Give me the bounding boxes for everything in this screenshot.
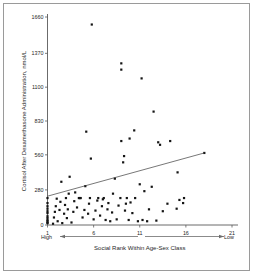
data-point: [46, 205, 48, 207]
y-tick-label: 560: [35, 152, 44, 158]
scatter-plot-figure: 028056083011001370166016111621Cortisol A…: [0, 0, 253, 274]
data-point: [61, 222, 63, 224]
data-point: [183, 197, 185, 199]
data-point: [143, 190, 145, 192]
regression-line: [48, 153, 205, 196]
data-point: [124, 209, 126, 211]
rank-low-label: Low: [224, 234, 234, 240]
data-point: [54, 211, 56, 213]
data-point: [152, 111, 154, 113]
figure-page: 028056083011001370166016111621Cortisol A…: [0, 0, 253, 274]
data-point: [64, 204, 66, 206]
data-point: [88, 203, 90, 205]
data-point: [137, 220, 139, 222]
x-tick-label: 11: [137, 230, 143, 236]
data-point: [155, 220, 157, 222]
data-point: [176, 171, 178, 173]
data-point: [119, 197, 121, 199]
data-point: [59, 201, 61, 203]
y-tick-label: 1660: [32, 14, 44, 20]
data-point: [122, 161, 124, 163]
rank-arrow-left-head-icon: [60, 235, 65, 239]
data-point: [112, 193, 114, 195]
data-point: [74, 191, 76, 193]
data-point: [94, 209, 96, 211]
data-point: [72, 211, 74, 213]
data-point: [90, 157, 92, 159]
data-point: [134, 197, 136, 199]
data-point: [70, 221, 72, 223]
data-point: [159, 144, 161, 146]
y-tick-label: 1370: [32, 50, 44, 56]
data-point: [85, 131, 87, 133]
data-point: [162, 210, 164, 212]
data-point: [141, 77, 143, 79]
data-point: [107, 202, 109, 204]
data-point: [105, 219, 107, 221]
data-point: [60, 181, 62, 183]
data-point: [93, 218, 95, 220]
data-point: [81, 216, 83, 218]
data-point: [131, 212, 133, 214]
data-point: [96, 199, 98, 201]
data-point: [67, 208, 69, 210]
scatter-plot-svg: 028056083011001370166016111621Cortisol A…: [0, 0, 253, 274]
data-point: [53, 216, 55, 218]
data-point: [166, 203, 168, 205]
rank-high-label: High: [41, 234, 52, 240]
axis-labels-group: 028056083011001370166016111621Cortisol A…: [21, 14, 235, 251]
data-point: [141, 219, 143, 221]
y-tick-label: 280: [35, 187, 44, 193]
data-point: [99, 215, 101, 217]
y-tick-label: 830: [35, 118, 44, 124]
data-point: [83, 209, 85, 211]
data-point: [46, 197, 48, 199]
data-point: [103, 197, 105, 199]
data-point: [146, 220, 148, 222]
data-point: [182, 202, 184, 204]
data-point: [76, 206, 78, 208]
data-point: [129, 137, 131, 139]
data-point: [55, 205, 57, 207]
data-point: [101, 205, 103, 207]
axes-group: [45, 14, 238, 228]
data-point: [56, 198, 58, 200]
data-point: [58, 209, 60, 211]
data-point: [68, 193, 70, 195]
data-point: [133, 129, 135, 131]
data-point: [89, 197, 91, 199]
data-point: [46, 210, 48, 212]
data-point: [120, 69, 122, 71]
data-point: [46, 215, 48, 217]
data-point: [46, 202, 48, 204]
trendline-group: [48, 153, 205, 196]
data-point: [120, 62, 122, 64]
data-point: [63, 213, 65, 215]
data-point: [148, 208, 150, 210]
data-point: [125, 203, 127, 205]
data-point: [52, 223, 54, 225]
x-axis-title: Social Rank Within Age-Sex Class: [94, 245, 185, 251]
data-point: [46, 212, 48, 214]
data-point: [80, 197, 82, 199]
data-point: [46, 217, 48, 219]
data-point: [106, 208, 108, 210]
data-point: [139, 183, 141, 185]
data-point: [157, 141, 159, 143]
data-point: [46, 219, 48, 221]
data-point: [57, 220, 59, 222]
data-point: [169, 140, 171, 142]
x-tick-label: 6: [92, 230, 95, 236]
data-point: [109, 220, 111, 222]
data-point: [126, 197, 128, 199]
data-point: [151, 186, 153, 188]
y-tick-label: 1100: [32, 84, 44, 90]
data-point: [69, 176, 71, 178]
data-point: [117, 204, 119, 206]
data-point: [97, 197, 99, 199]
data-point: [46, 208, 48, 210]
data-point: [87, 213, 89, 215]
data-point: [178, 199, 180, 201]
data-point: [128, 219, 130, 221]
data-point: [66, 217, 68, 219]
